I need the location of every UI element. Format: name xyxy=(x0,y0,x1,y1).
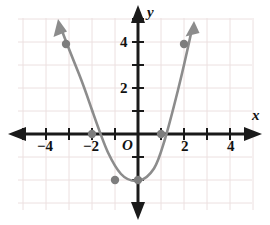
point-marker xyxy=(180,40,188,48)
x-axis-label: x xyxy=(252,108,260,123)
y-axis-bottom-arrowhead xyxy=(131,202,145,220)
y-tick-label-4: 4 xyxy=(120,35,128,50)
point-marker xyxy=(88,130,96,138)
x-tick-label-neg2: −2 xyxy=(83,139,99,154)
point-marker xyxy=(111,176,119,184)
x-tick-label-neg4: −4 xyxy=(37,139,53,154)
coordinate-plane-svg xyxy=(0,0,270,225)
curve-left-arrowhead xyxy=(54,19,68,37)
curve-right-arrowhead xyxy=(186,21,200,37)
origin-label: O xyxy=(122,138,133,153)
x-tick-label-2: 2 xyxy=(181,139,189,154)
y-tick-label-2: 2 xyxy=(120,81,128,96)
y-axis xyxy=(131,5,145,220)
point-marker xyxy=(134,176,142,184)
graph-canvas: −4 −2 2 4 4 2 O x y xyxy=(0,0,270,225)
y-axis-top-arrowhead xyxy=(131,5,145,23)
x-tick-label-4: 4 xyxy=(227,139,235,154)
y-axis-label: y xyxy=(147,5,154,20)
point-marker xyxy=(62,40,70,48)
point-marker xyxy=(157,130,165,138)
plotted-points xyxy=(62,40,188,184)
